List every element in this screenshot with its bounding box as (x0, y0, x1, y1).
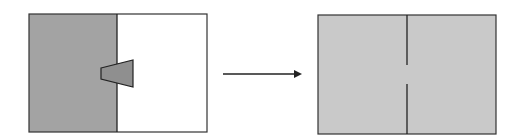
before-box (29, 14, 207, 132)
transform-arrow (223, 70, 302, 78)
after-box (318, 15, 496, 134)
diagram-canvas (0, 0, 526, 136)
